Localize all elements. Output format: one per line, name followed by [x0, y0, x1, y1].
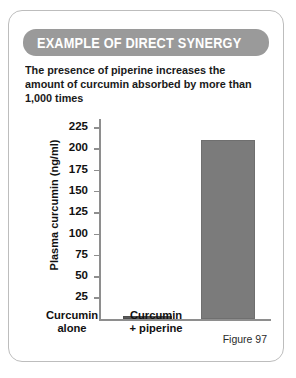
- y-tick-100: 100: [94, 234, 99, 236]
- figure-card: EXAMPLE OF DIRECT SYNERGY The presence o…: [8, 10, 284, 362]
- y-axis-title: Plasma curcumin (ng/ml): [48, 130, 60, 280]
- banner: EXAMPLE OF DIRECT SYNERGY: [23, 29, 269, 56]
- y-tick-label-200: 200: [69, 141, 88, 153]
- x-category-label-0-line-1: alone: [31, 322, 113, 335]
- y-tick-label-175: 175: [69, 163, 88, 175]
- y-tick-label-50: 50: [75, 269, 88, 281]
- bar-chart: Plasma curcumin (ng/ml) 225 200 175 150 …: [23, 103, 273, 333]
- y-tick-200: 200: [94, 148, 99, 150]
- x-category-label-1-line-0: Curcumin: [111, 309, 201, 322]
- y-axis-line: [99, 119, 101, 321]
- y-tick-75: 75: [94, 255, 99, 257]
- x-category-label-0-line-0: Curcumin: [31, 309, 113, 322]
- y-tick-50: 50: [94, 276, 99, 278]
- y-tick-25: 25: [94, 297, 99, 299]
- chart-subtitle: The presence of piperine increases the a…: [25, 63, 261, 105]
- page-title: EXAMPLE OF DIRECT SYNERGY: [37, 35, 241, 51]
- y-tick-label-100: 100: [69, 227, 88, 239]
- bar-curcumin-piperine: [201, 140, 255, 319]
- y-tick-label-125: 125: [69, 205, 88, 217]
- y-tick-label-225: 225: [69, 120, 88, 132]
- y-tick-175: 175: [94, 170, 99, 172]
- x-category-label-1-line-1: + piperine: [111, 322, 201, 335]
- plot-area: 225 200 175 150 125 100 75 50: [99, 119, 271, 321]
- y-tick-225: 225: [94, 127, 99, 129]
- x-category-label-1: Curcumin + piperine: [111, 309, 201, 335]
- x-category-label-0: Curcumin alone: [31, 309, 113, 335]
- figure-caption: Figure 97: [223, 333, 267, 345]
- y-tick-label-25: 25: [75, 290, 88, 302]
- y-tick-label-150: 150: [69, 184, 88, 196]
- y-tick-150: 150: [94, 191, 99, 193]
- y-tick-125: 125: [94, 212, 99, 214]
- y-tick-label-75: 75: [75, 248, 88, 260]
